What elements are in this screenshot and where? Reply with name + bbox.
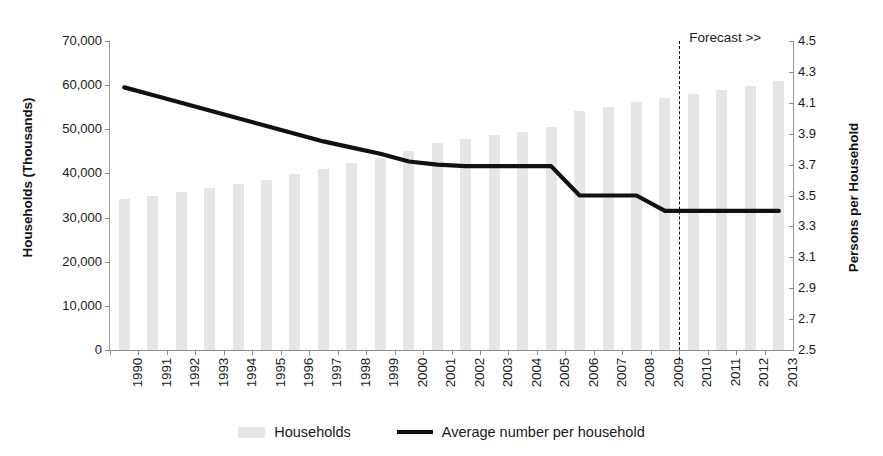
x-tick-label-2000: 2000 [415,358,430,387]
y-axis-right-title: Persons per Household [846,78,861,318]
y-right-tick: 3.1 [798,250,844,263]
x-tick-label-1993: 1993 [216,358,231,387]
y-left-tick: 20,000 [30,255,102,268]
y-left-tick: 60,000 [30,78,102,91]
x-tick-label-1991: 1991 [159,358,174,387]
y-right-tick: 3.5 [798,189,844,202]
y-left-tickmark [105,41,110,42]
x-axis-tickmark [480,350,481,355]
y-right-tick: 4.1 [798,96,844,109]
x-tick-label-2007: 2007 [614,358,629,387]
x-axis-tickmark [110,350,111,355]
y-right-tick: 2.5 [798,343,844,356]
y-left-tickmark [105,262,110,263]
x-tick-label-1995: 1995 [273,358,288,387]
legend-label-average-per-household: Average number per household [442,424,645,440]
x-axis-tickmark [167,350,168,355]
legend-label-households: Households [274,424,351,440]
x-tick-label-2012: 2012 [756,358,771,387]
x-tick-label-1998: 1998 [358,358,373,387]
y-right-tick-label: 3.9 [798,127,844,140]
y-right-tick-label: 3.3 [798,219,844,232]
y-right-tick: 3.9 [798,127,844,140]
forecast-divider-line [679,41,680,360]
y-right-tickmark [789,72,794,73]
y-left-tickmark [105,218,110,219]
x-axis-tickmark [224,350,225,355]
y-right-tickmark [789,134,794,135]
x-tick-label-1990: 1990 [130,358,145,387]
x-axis-tickmark [537,350,538,355]
x-axis-tickmark [252,350,253,355]
x-tick-label-2008: 2008 [642,358,657,387]
x-axis-tickmark [309,350,310,355]
y-left-tick: 50,000 [30,122,102,135]
y-right-tick-label: 2.5 [798,343,844,356]
y-left-tickmark [105,129,110,130]
x-tick-label-2013: 2013 [785,358,800,387]
y-left-tick: 10,000 [30,299,102,312]
x-tick-label-2010: 2010 [699,358,714,387]
x-tick-label-2009: 2009 [671,358,686,387]
y-right-tickmark [789,103,794,104]
x-tick-label-2004: 2004 [529,358,544,387]
x-tick-label-2003: 2003 [500,358,515,387]
y-left-tick-label: 40,000 [30,166,102,179]
x-axis-tickmark [452,350,453,355]
y-right-tickmark [789,257,794,258]
x-tick-label-1997: 1997 [329,358,344,387]
y-right-tickmark [789,196,794,197]
y-left-tick-label: 30,000 [30,211,102,224]
line-series-layer [110,41,793,350]
x-tick-label-2005: 2005 [557,358,572,387]
x-axis-tickmark [195,350,196,355]
y-left-tick-label: 0 [30,343,102,356]
y-right-tick: 3.3 [798,219,844,232]
x-axis-tickmark [508,350,509,355]
y-right-tick-label: 4.3 [798,65,844,78]
x-tick-label-1992: 1992 [187,358,202,387]
plot-area [110,41,793,350]
y-right-tick-label: 4.5 [798,34,844,47]
x-axis-tickmark [622,350,623,355]
x-axis-tickmark [338,350,339,355]
y-left-tickmark [105,85,110,86]
x-axis-tickmark [679,350,680,355]
legend-item-households: Households [238,424,351,440]
x-axis-tickmark [651,350,652,355]
legend-item-average-per-household: Average number per household [397,424,645,440]
x-axis-tickmark [423,350,424,355]
y-left-tick: 40,000 [30,166,102,179]
household-forecast-chart: Households (Thousands) Persons per House… [0,0,883,456]
x-tick-label-2006: 2006 [586,358,601,387]
x-axis-tickmark [765,350,766,355]
y-left-tick-label: 60,000 [30,78,102,91]
forecast-label: Forecast >> [689,30,761,45]
x-axis-category-labels: 1990199119921993199419951996199719981999… [110,352,793,412]
y-right-tick: 2.7 [798,312,844,325]
y-right-tick: 2.9 [798,281,844,294]
y-left-tick: 0 [30,343,102,356]
y-axis-left-ticks: 010,00020,00030,00040,00050,00060,00070,… [30,0,102,456]
x-tick-label-2011: 2011 [728,358,743,386]
x-tick-label-1999: 1999 [386,358,401,387]
y-right-tick: 4.3 [798,65,844,78]
y-right-tick-label: 2.9 [798,281,844,294]
x-axis-tickmark [366,350,367,355]
x-axis-tickmark [708,350,709,355]
bar-swatch-icon [238,427,265,438]
y-left-tick: 70,000 [30,34,102,47]
x-axis-tickmark [138,350,139,355]
y-left-tick-label: 50,000 [30,122,102,135]
y-right-tickmark [789,41,794,42]
y-right-tick-label: 3.7 [798,158,844,171]
x-tick-label-1996: 1996 [301,358,316,387]
x-axis-tickmark [736,350,737,355]
line-swatch-icon [397,430,433,434]
y-right-tickmark [789,350,794,351]
y-right-tick-label: 3.5 [798,189,844,202]
y-right-tickmark [789,288,794,289]
x-axis-tickmark [281,350,282,355]
y-right-tick-label: 2.7 [798,312,844,325]
y-right-tick: 4.5 [798,34,844,47]
